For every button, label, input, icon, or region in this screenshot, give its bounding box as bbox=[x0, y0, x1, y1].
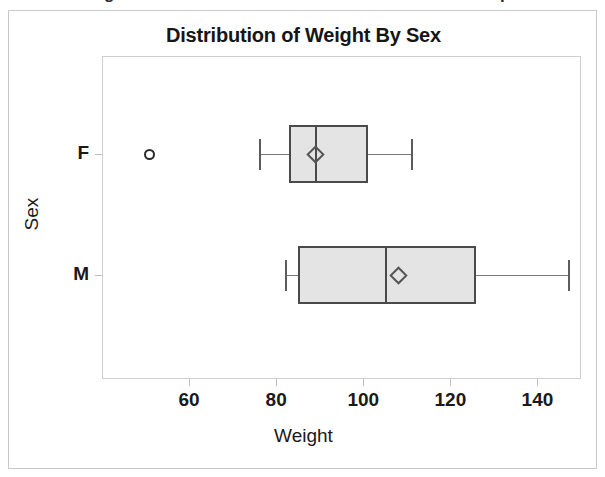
y-axis-tick-label-f: F bbox=[65, 142, 89, 164]
x-axis-tick-label: 140 bbox=[507, 389, 567, 411]
whisker-cap-high-m bbox=[568, 260, 570, 291]
whisker-cap-low-f bbox=[259, 139, 261, 170]
chart-title: Distribution of Weight By Sex bbox=[9, 24, 598, 47]
x-axis-tick-label: 80 bbox=[246, 389, 306, 411]
x-axis-tick-label: 100 bbox=[333, 389, 393, 411]
box-f[interactable] bbox=[289, 125, 367, 183]
plot-area bbox=[102, 56, 581, 379]
whisker-low-f bbox=[259, 154, 289, 155]
whisker-high-f bbox=[368, 154, 412, 155]
y-axis-tick bbox=[95, 154, 102, 155]
clipped-text-fragments: g p bbox=[0, 0, 605, 9]
x-axis-tick-label: 60 bbox=[159, 389, 219, 411]
x-axis-tick bbox=[189, 379, 190, 386]
boxplot-figure: Distribution of Weight By Sex 6080100120… bbox=[8, 10, 597, 469]
x-axis-tick bbox=[276, 379, 277, 386]
x-axis-label: Weight bbox=[9, 425, 598, 447]
x-axis-tick-label: 120 bbox=[420, 389, 480, 411]
y-axis-label: Sex bbox=[21, 174, 43, 254]
y-axis-tick bbox=[95, 275, 102, 276]
whisker-cap-high-f bbox=[411, 139, 413, 170]
y-axis-tick-label-m: M bbox=[65, 263, 89, 285]
x-axis-tick bbox=[450, 379, 451, 386]
whisker-cap-low-m bbox=[285, 260, 287, 291]
x-axis-tick bbox=[537, 379, 538, 386]
box-m[interactable] bbox=[298, 246, 477, 304]
median-line-m bbox=[385, 246, 387, 304]
x-axis-tick bbox=[363, 379, 364, 386]
whisker-high-m bbox=[476, 275, 567, 276]
outlier-point-f-0 bbox=[144, 149, 155, 160]
